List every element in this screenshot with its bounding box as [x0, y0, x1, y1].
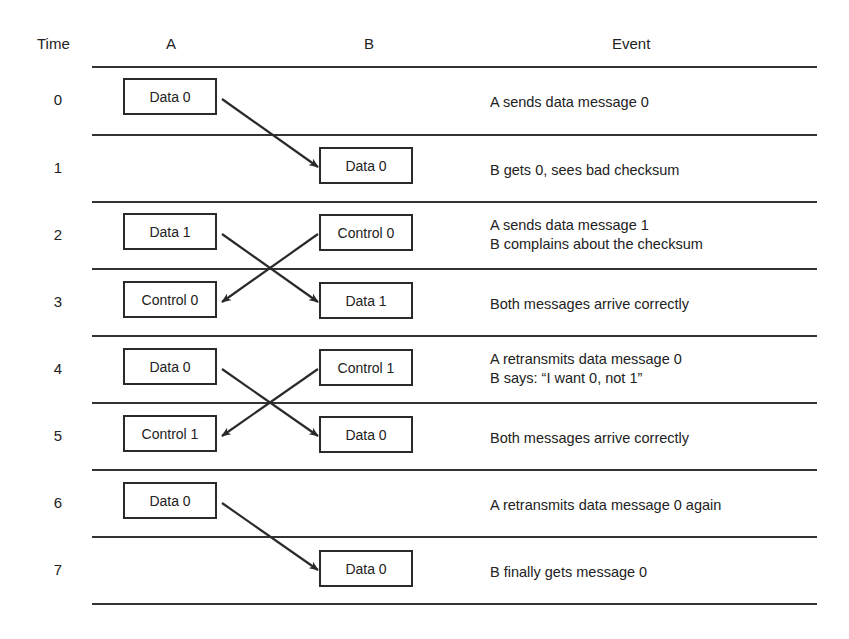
- event-text: Both messages arrive correctly: [490, 295, 689, 314]
- box-a-time0: Data 0: [123, 78, 217, 115]
- box-a-time2: Data 1: [123, 213, 217, 250]
- box-a-time3: Control 0: [123, 281, 217, 318]
- box-b-time5: Data 0: [319, 416, 413, 453]
- box-b-time4: Control 1: [319, 349, 413, 386]
- box-b-time2: Control 0: [319, 214, 413, 251]
- box-a-time5: Control 1: [123, 415, 217, 452]
- event-text: A retransmits data message 0 B says: “I …: [490, 350, 682, 388]
- box-b-time3: Data 1: [319, 282, 413, 319]
- arrow-a0-b1: [222, 99, 318, 167]
- event-text: Both messages arrive correctly: [490, 429, 689, 448]
- event-text: B finally gets message 0: [490, 563, 647, 582]
- box-b-time1: Data 0: [319, 147, 413, 184]
- box-a-time6: Data 0: [123, 482, 217, 519]
- box-a-time4: Data 0: [123, 348, 217, 385]
- event-text: A sends data message 1 B complains about…: [490, 216, 703, 254]
- event-text: A retransmits data message 0 again: [490, 496, 721, 515]
- event-text: A sends data message 0: [490, 93, 649, 112]
- box-b-time7: Data 0: [319, 550, 413, 587]
- arrow-a6-b7: [222, 503, 318, 570]
- event-text: B gets 0, sees bad checksum: [490, 161, 679, 180]
